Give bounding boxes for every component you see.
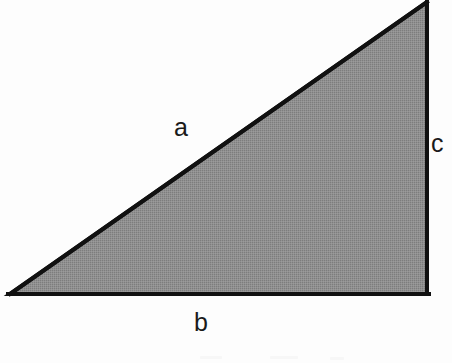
side-label-a: a	[174, 115, 188, 140]
page-edge-artifact-center	[270, 356, 298, 359]
side-label-b: b	[194, 310, 208, 335]
page-edge-artifact-right	[330, 357, 344, 360]
triangle-diagram-svg	[0, 0, 452, 363]
page-edge-artifact-left	[200, 356, 222, 359]
triangle-figure: a b c	[0, 0, 452, 363]
side-label-c: c	[431, 131, 444, 156]
